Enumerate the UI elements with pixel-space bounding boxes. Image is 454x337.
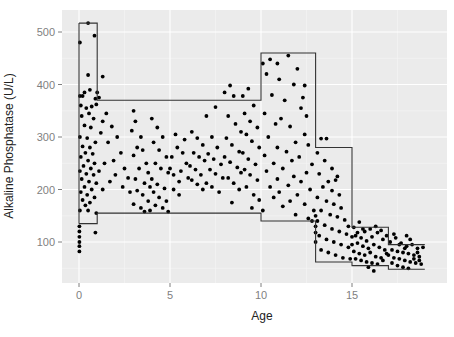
data-point [407,252,411,256]
data-point [299,106,303,110]
data-point [248,119,252,123]
data-point [177,193,181,197]
data-point [219,162,223,166]
data-point [310,162,314,166]
data-point [237,150,241,154]
data-point [336,175,340,179]
data-point [135,146,139,150]
data-point [285,150,289,154]
data-point [199,173,203,177]
data-point [93,34,97,38]
data-point [286,183,290,187]
data-point [390,261,394,265]
data-point [326,251,330,255]
data-point [166,171,170,175]
data-point [337,230,341,234]
y-tick-label: 100 [37,236,55,248]
data-point [323,159,327,163]
data-point [195,182,199,186]
data-point [401,265,405,269]
data-point [274,122,278,126]
data-point [139,135,143,139]
data-point [85,136,89,140]
data-point [143,181,147,185]
data-point [250,139,254,143]
data-point [94,181,98,185]
data-point [325,238,329,242]
data-point [175,146,179,150]
data-point [339,243,343,247]
data-point [208,168,212,172]
data-point [85,193,89,197]
data-point [316,151,320,155]
data-point [357,252,361,256]
data-point [270,93,274,97]
x-axis: 051015 [76,283,358,301]
data-point [146,199,150,203]
data-point [252,193,256,197]
data-point [330,167,334,171]
data-point [201,188,205,192]
data-point [82,164,86,168]
data-point [281,204,285,208]
data-point [387,253,391,257]
data-point [210,135,214,139]
data-point [312,209,316,213]
data-point [94,103,98,107]
data-point [108,180,112,184]
data-point [317,234,321,238]
data-point [321,185,325,189]
data-point [201,143,205,147]
data-point [106,140,110,144]
data-point [299,180,303,184]
data-point [421,245,425,249]
data-point [412,257,416,261]
data-point [226,176,230,180]
data-point [343,218,347,222]
data-point [146,171,150,175]
data-point [363,253,367,257]
data-point [88,146,92,150]
data-point [188,164,192,168]
y-tick-label: 300 [37,131,55,143]
data-point [179,169,183,173]
data-point [210,185,214,189]
data-point [90,105,94,109]
data-point [192,151,196,155]
data-point [94,231,98,235]
data-point [83,124,87,128]
data-point [290,159,294,163]
data-point [296,193,300,197]
data-point [417,259,421,263]
data-point [303,202,307,206]
data-point [168,167,172,171]
data-point [157,148,161,152]
data-point [92,173,96,177]
data-point [186,176,190,180]
data-point [330,227,334,231]
data-point [252,104,256,108]
data-point [245,133,249,137]
data-point [257,198,261,202]
data-point [272,196,276,200]
data-point [112,159,116,163]
data-point [294,140,298,144]
data-point [243,168,247,172]
data-point [276,146,280,150]
data-point [306,217,310,221]
data-point [250,206,254,210]
data-point [345,232,349,236]
data-point [93,196,97,200]
data-point [183,138,187,142]
data-point [323,223,327,227]
data-point [128,190,132,194]
data-point [161,206,165,210]
data-point [379,229,383,233]
data-point [350,243,354,247]
data-point [319,209,323,213]
data-point [172,173,176,177]
data-point [405,234,409,238]
data-point [301,96,305,100]
data-point [370,261,374,265]
data-point [325,137,329,141]
